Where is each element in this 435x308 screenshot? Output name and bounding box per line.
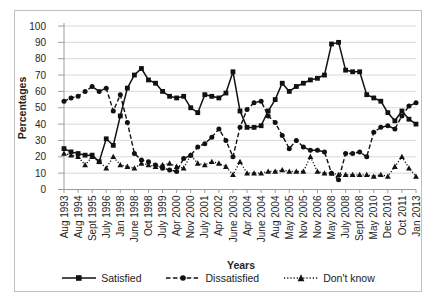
legend-item-satisfied: Satisfied	[61, 272, 141, 284]
x-tick-label: May 2005	[284, 195, 295, 239]
x-tick-label: July 2008	[340, 195, 351, 238]
legend-item-dissatisfied: Dissatisfied	[165, 272, 259, 284]
screenshot-root: { "figure": { "type": "statistical line …	[0, 0, 435, 308]
x-tick-label: Nov 2005	[298, 195, 309, 238]
x-tick-label: July 2001	[199, 195, 210, 238]
x-tick-label: Jan 1998	[115, 195, 126, 237]
x-tick-label: May 2008	[326, 195, 337, 239]
x-tick-label: Aug 1993	[59, 195, 70, 238]
x-tick-label: Apr 2004	[242, 195, 253, 236]
x-tick-label: Sept 1995	[87, 195, 98, 241]
x-tick-label: Apr 2002	[213, 195, 224, 236]
y-tick-label: 0	[40, 184, 46, 195]
legend-label-dissatisfied: Dissatisfied	[205, 272, 259, 284]
y-tick-label: 20	[35, 151, 47, 162]
y-tick-label: 30	[35, 135, 47, 146]
y-tick-label: 80	[35, 53, 47, 64]
x-tick-label: Oct 1998	[143, 195, 154, 236]
x-tick-label: July 1996	[101, 195, 112, 238]
legend-label-dont-know: Don't know	[323, 272, 375, 284]
legend-item-dont-know: Don't know	[283, 272, 375, 284]
x-tick-label: Nov 2006	[312, 195, 323, 238]
dashed-line-circle-marker-icon	[165, 272, 201, 284]
solid-line-square-marker-icon	[61, 272, 97, 284]
y-tick-label: 90	[35, 37, 47, 48]
x-tick-label: June 2003	[228, 195, 239, 242]
dotted-line-triangle-marker-icon	[283, 272, 319, 284]
x-tick-label: June 1998	[129, 195, 140, 242]
x-tick-label: May 2010	[368, 195, 379, 239]
chart-plot-area: 0102030405060708090100Aug 1993Aug 1994Se…	[15, 11, 421, 291]
x-tick-label: Oct 2011	[397, 195, 408, 235]
x-tick-label: July 1999	[157, 195, 168, 238]
x-tick-label: Apr 2000	[171, 195, 182, 236]
y-tick-label: 40	[35, 119, 47, 130]
y-axis-title: Percentages	[16, 77, 28, 140]
y-tick-label: 60	[35, 86, 47, 97]
y-tick-label: 70	[35, 70, 47, 81]
chart-figure: 0102030405060708090100Aug 1993Aug 1994Se…	[14, 10, 422, 292]
x-tick-label: Jan 2013	[411, 195, 421, 237]
y-tick-label: 10	[35, 168, 47, 179]
x-tick-label: Aug 1994	[73, 195, 84, 238]
legend-label-satisfied: Satisfied	[101, 272, 141, 284]
y-tick-label: 100	[29, 21, 46, 32]
y-tick-label: 50	[35, 102, 47, 113]
x-tick-label: Nov 2000	[185, 195, 196, 238]
x-tick-label: June 2004	[256, 195, 267, 242]
x-tick-label: Aug 2004	[270, 195, 281, 238]
legend: Satisfied Dissatisfied Don't know	[15, 270, 421, 286]
x-tick-label: Dec 2010	[382, 195, 393, 238]
x-tick-label: Sept 2008	[354, 195, 365, 241]
